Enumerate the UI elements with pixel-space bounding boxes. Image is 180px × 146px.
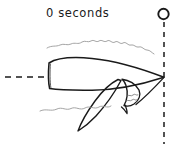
circle-marker-icon — [158, 9, 168, 19]
whale-sketch-canvas — [0, 0, 180, 146]
whale-body-icon — [49, 58, 164, 91]
water-wave-line-upper-icon — [47, 40, 154, 54]
whale-flipper-icon — [78, 80, 121, 132]
fin-texture-wave-icon — [127, 94, 138, 96]
fin-texture-wave-icon — [126, 99, 137, 101]
sketch-figure: 0 seconds — [0, 0, 180, 146]
whale-head-edge-icon — [50, 64, 51, 88]
time-label: 0 seconds — [46, 6, 109, 20]
whale-fin-icon — [122, 79, 140, 106]
